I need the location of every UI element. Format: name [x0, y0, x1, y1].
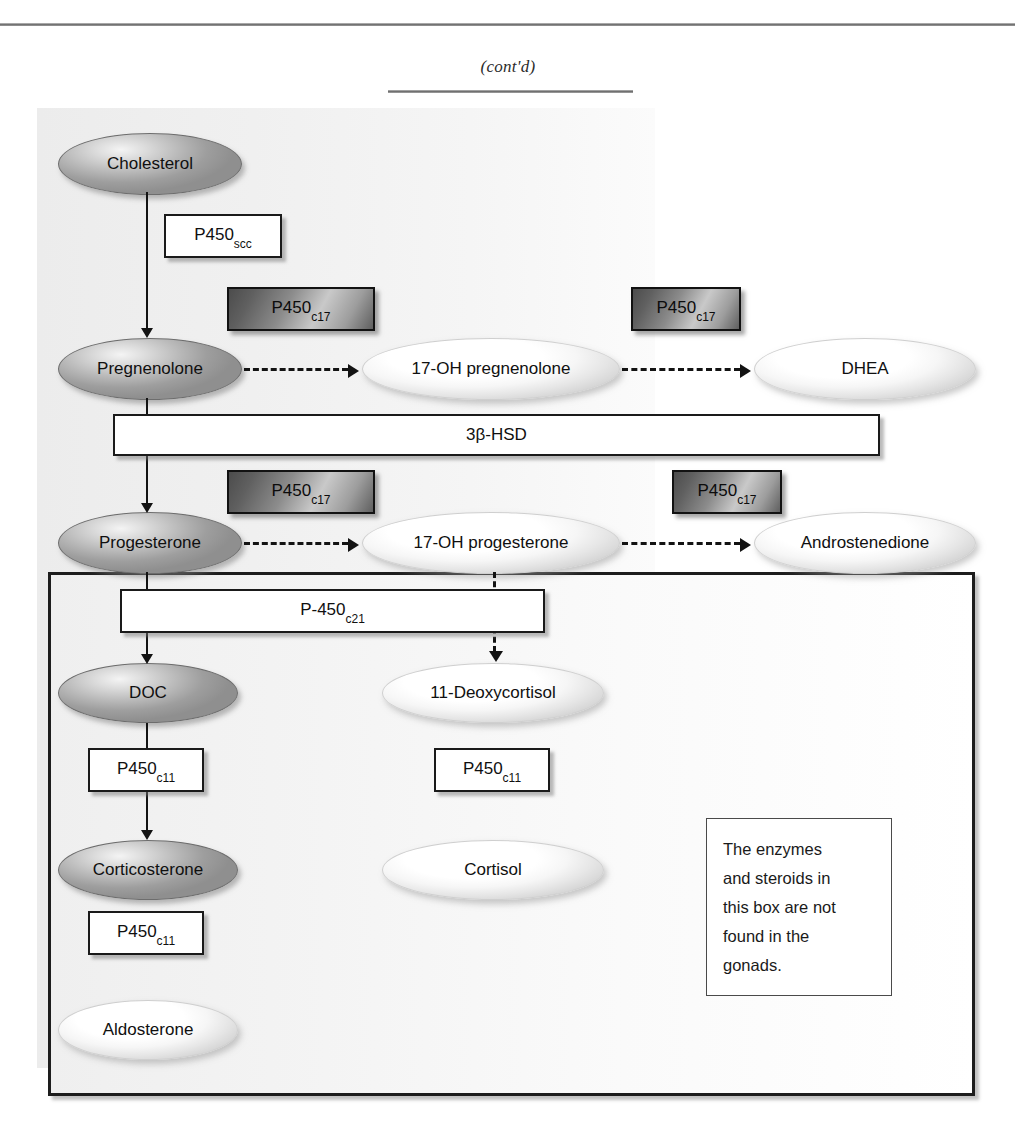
- arrow-17oh-pregnenolone-to-dhea: [622, 368, 740, 371]
- enzyme-subscript: c11: [503, 771, 521, 785]
- enzyme-box-p450c17-17oh-pregnenolone[interactable]: P450c17: [631, 287, 741, 331]
- note-line: The enzymes: [723, 835, 891, 864]
- enzyme-box-p450c17-17oh-progesterone[interactable]: P450c17: [672, 470, 782, 514]
- enzyme-box-p450scc[interactable]: P450scc: [164, 214, 282, 258]
- gonads-note-box: The enzymes and steroids in this box are…: [706, 818, 892, 996]
- enzyme-subscript: c17: [311, 493, 330, 507]
- steroid-label: 17-OH pregnenolone: [412, 359, 571, 379]
- steroid-node-11-deoxycortisol[interactable]: 11-Deoxycortisol: [382, 663, 604, 723]
- note-line: gonads.: [723, 951, 891, 980]
- steroid-node-pregnenolone[interactable]: Pregnenolone: [58, 338, 242, 400]
- page-top-rule: [0, 23, 1015, 26]
- enzyme-subscript: c11: [157, 771, 175, 785]
- note-line: and steroids in: [723, 864, 891, 893]
- steroid-node-corticosterone[interactable]: Corticosterone: [58, 840, 238, 900]
- arrow-cholesterol-to-pregnenolone: [146, 192, 148, 329]
- enzyme-subscript: c21: [346, 612, 365, 626]
- steroid-label: Corticosterone: [93, 860, 204, 880]
- steroid-label: Cortisol: [464, 860, 522, 880]
- arrow-progesterone-to-17oh-progesterone: [244, 542, 348, 545]
- enzyme-subscript: c17: [696, 310, 715, 324]
- enzyme-label: P450c17: [271, 298, 330, 320]
- note-line: this box are not: [723, 893, 891, 922]
- steroid-node-progesterone[interactable]: Progesterone: [58, 512, 242, 574]
- enzyme-box-p450c11-doc[interactable]: P450c11: [88, 748, 204, 792]
- enzyme-box-p450c17-pregnenolone[interactable]: P450c17: [227, 287, 375, 331]
- arrow-17oh-progesterone-to-androstenedione: [622, 542, 740, 545]
- enzyme-box-p450c11-corticosterone[interactable]: P450c11: [88, 911, 204, 955]
- enzyme-subscript: scc: [234, 237, 252, 251]
- figure-canvas: (cont'd) Cholesterol Pregnenolone 17-OH …: [0, 0, 1015, 1133]
- enzyme-label: P450c11: [117, 922, 175, 944]
- note-line: found in the: [723, 922, 891, 951]
- enzyme-label: P450c11: [463, 759, 521, 781]
- steroid-label: DOC: [129, 683, 167, 703]
- steroid-label: Aldosterone: [103, 1020, 194, 1040]
- enzyme-label: P450c17: [271, 481, 330, 503]
- steroid-node-dhea[interactable]: DHEA: [754, 338, 976, 400]
- enzyme-box-p450c17-progesterone[interactable]: P450c17: [227, 470, 375, 514]
- steroid-node-cortisol[interactable]: Cortisol: [382, 840, 604, 900]
- enzyme-label: P450c11: [117, 759, 175, 781]
- enzyme-box-p450c21[interactable]: P-450c21: [120, 589, 545, 633]
- steroid-label: Pregnenolone: [97, 359, 203, 379]
- enzyme-subscript: c11: [157, 934, 175, 948]
- steroid-label: 11-Deoxycortisol: [430, 683, 555, 703]
- steroid-label: 17-OH progesterone: [414, 533, 569, 553]
- steroid-label: Progesterone: [99, 533, 201, 553]
- steroid-node-doc[interactable]: DOC: [58, 663, 238, 723]
- enzyme-subscript: c17: [311, 310, 330, 324]
- arrow-pregnenolone-to-17oh-pregnenolone: [244, 368, 348, 371]
- steroid-node-androstenedione[interactable]: Androstenedione: [754, 512, 976, 574]
- steroid-label: Androstenedione: [801, 533, 930, 553]
- enzyme-label: 3β-HSD: [466, 425, 527, 445]
- steroid-node-aldosterone[interactable]: Aldosterone: [58, 1000, 238, 1060]
- enzyme-label: P450c17: [697, 481, 756, 503]
- enzyme-label: P450c17: [656, 298, 715, 320]
- continued-label: (cont'd): [383, 57, 633, 77]
- steroid-label: Cholesterol: [107, 154, 193, 174]
- steroid-label: DHEA: [841, 359, 888, 379]
- enzyme-box-p450c11-11-deoxycortisol[interactable]: P450c11: [434, 748, 550, 792]
- continued-underline: [388, 90, 633, 93]
- steroid-node-17oh-pregnenolone[interactable]: 17-OH pregnenolone: [362, 338, 620, 400]
- enzyme-box-3beta-hsd[interactable]: 3β-HSD: [113, 414, 880, 456]
- steroid-node-cholesterol[interactable]: Cholesterol: [58, 133, 242, 195]
- steroid-node-17oh-progesterone[interactable]: 17-OH progesterone: [362, 512, 620, 574]
- enzyme-label: P-450c21: [300, 600, 365, 622]
- enzyme-subscript: c17: [737, 493, 756, 507]
- enzyme-label: P450scc: [194, 225, 252, 247]
